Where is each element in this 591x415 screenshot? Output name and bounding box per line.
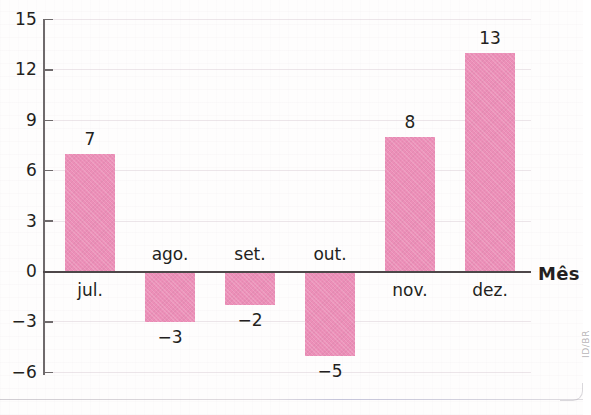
x-axis-category-label: jul. — [50, 282, 130, 299]
bar — [385, 137, 435, 271]
x-axis-line — [43, 271, 531, 273]
y-axis-tick — [43, 220, 53, 222]
gridline — [44, 170, 531, 171]
bar-value-label: −3 — [130, 329, 210, 346]
gridline — [44, 221, 531, 222]
bar-value-label: 8 — [370, 114, 450, 131]
gridline — [44, 19, 531, 20]
bar-value-label: 13 — [450, 30, 530, 47]
page-edge-line — [0, 399, 583, 400]
y-axis-tick — [43, 120, 53, 122]
x-axis-category-label: ago. — [130, 246, 210, 263]
y-axis-tick-label: 12 — [0, 61, 37, 78]
y-axis-tick-label: −6 — [0, 364, 37, 381]
bar — [305, 272, 355, 356]
gridline — [44, 372, 531, 373]
y-axis-tick-label: 0 — [0, 263, 37, 280]
x-axis-category-label: dez. — [450, 282, 530, 299]
bar — [225, 272, 275, 306]
page-edge-corner — [560, 383, 583, 401]
y-axis-tick-label: −3 — [0, 313, 37, 330]
y-axis-tick — [43, 321, 53, 323]
bar-value-label: −2 — [210, 312, 290, 329]
y-axis-tick — [43, 372, 53, 374]
x-axis-title: Mês — [538, 263, 580, 284]
bar-value-label: 7 — [50, 131, 130, 148]
bar — [145, 272, 195, 322]
y-axis-tick — [43, 170, 53, 172]
gridline — [44, 120, 531, 121]
y-axis-tick-label: 9 — [0, 112, 37, 129]
y-axis-tick-label: 3 — [0, 213, 37, 230]
y-axis-tick-label: 6 — [0, 162, 37, 179]
x-axis-category-label: out. — [290, 246, 370, 263]
bar — [65, 154, 115, 272]
y-axis-tick — [43, 69, 53, 71]
y-axis-tick-label: 15 — [0, 11, 37, 28]
x-axis-category-label: set. — [210, 246, 290, 263]
bar — [465, 53, 515, 271]
x-axis-category-label: nov. — [370, 282, 450, 299]
gridline — [44, 69, 531, 70]
bar-value-label: −5 — [290, 363, 370, 380]
credit-watermark: ID/BR — [581, 330, 591, 358]
y-axis-tick — [43, 19, 53, 21]
